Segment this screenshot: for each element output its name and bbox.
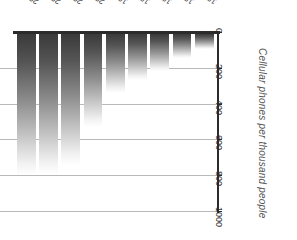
chart-container: 02004006008001000 2003200220012000199919… (0, 0, 297, 240)
bar (17, 34, 36, 175)
year-label-1995: 1995 (198, 0, 218, 6)
year-label-1996: 1996 (176, 0, 196, 6)
bar (150, 34, 169, 71)
year-label-1997: 1997 (154, 0, 174, 6)
value-tick-label-text: 200 (214, 64, 224, 79)
bar (39, 34, 58, 174)
year-label-2000: 2000 (87, 0, 107, 6)
bar (195, 34, 214, 49)
value-tick-label-text: 0 (214, 28, 224, 33)
value-tick-label-text: 1000 (214, 207, 224, 227)
gridline-1000 (0, 211, 217, 212)
bar (61, 34, 80, 165)
year-label-2001: 2001 (65, 0, 85, 6)
year-label-1998: 1998 (131, 0, 151, 6)
bar (128, 34, 147, 80)
value-tick-label-text: 400 (214, 100, 224, 115)
year-label-2003: 2003 (20, 0, 40, 6)
category-axis-line (13, 31, 220, 34)
year-label-1999: 1999 (109, 0, 129, 6)
value-axis-title: Cellular phones per thousand people (257, 48, 268, 218)
value-tick-label-text: 800 (214, 171, 224, 186)
bar (84, 34, 103, 127)
bar (106, 34, 125, 93)
year-label-2002: 2002 (42, 0, 62, 6)
value-tick-label-text: 600 (214, 135, 224, 150)
bar (173, 34, 192, 58)
